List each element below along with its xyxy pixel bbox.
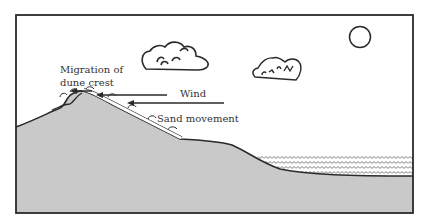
- sun-icon: [350, 27, 371, 48]
- label-migration-line2: dune crest: [60, 77, 114, 88]
- label-migration-line1: Migration of: [60, 64, 124, 75]
- label-wind: Wind: [180, 88, 207, 99]
- dune-diagram: Migration of dune crest Wind Sand moveme…: [0, 0, 426, 224]
- label-sand-movement: Sand movement: [157, 113, 239, 124]
